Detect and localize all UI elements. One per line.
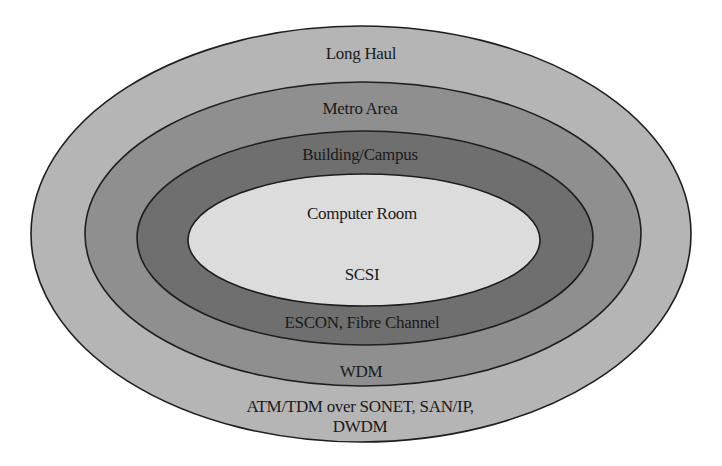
metro-area-title: Metro Area — [323, 100, 398, 118]
computer-room-ellipse — [188, 174, 540, 306]
computer-room-technology: SCSI — [345, 266, 380, 284]
long-haul-technology-line2: DWDM — [333, 418, 388, 436]
computer-room-title: Computer Room — [307, 205, 417, 223]
building-campus-title: Building/Campus — [302, 146, 417, 164]
metro-area-technology: WDM — [340, 363, 383, 381]
long-haul-title: Long Haul — [326, 45, 396, 63]
long-haul-technology-line1: ATM/TDM over SONET, SAN/IP, — [246, 398, 473, 416]
building-campus-technology: ESCON, Fibre Channel — [284, 314, 439, 332]
